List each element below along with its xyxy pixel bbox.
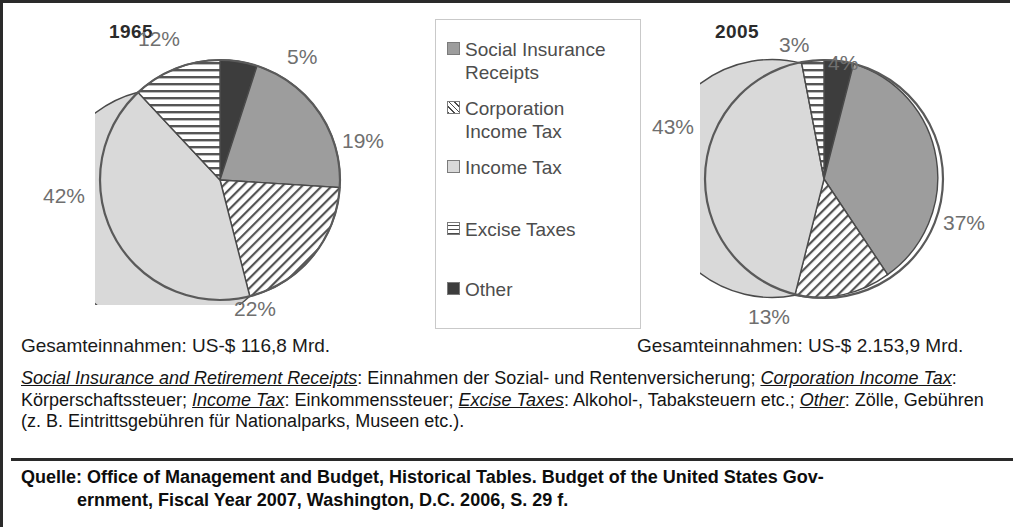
legend-item-other[interactable]: Other (447, 278, 513, 301)
legend-label-excise-taxes: Excise Taxes (465, 218, 576, 241)
glossary-def-income-tax: : Einkommenssteuer; (284, 390, 458, 410)
chart-panel-1965: 1965 (11, 9, 431, 334)
legend-label-corporation-income-tax: Corporation Income Tax (465, 97, 564, 143)
pct-label-excise-1965: 12% (138, 27, 180, 51)
pie-svg-2005 (700, 55, 948, 303)
legend-swatch-excise-taxes-icon (447, 222, 460, 235)
legend-swatch-social-insurance-icon (447, 42, 460, 55)
pct-label-excise-2005: 3% (779, 33, 809, 57)
glossary-term-corporation-income-tax: Corporation Income Tax (760, 368, 951, 388)
source-line-1: Quelle: Office of Management and Budget,… (21, 467, 824, 487)
source-block: Quelle: Office of Management and Budget,… (21, 466, 981, 512)
pie-chart-2005 (700, 55, 948, 303)
glossary-term-excise-taxes: Excise Taxes (459, 390, 564, 410)
glossary-term-income-tax: Income Tax (192, 390, 284, 410)
pct-label-social-1965: 19% (342, 129, 384, 153)
legend-swatch-income-tax-icon (447, 160, 460, 173)
total-receipts-1965: Gesamteinnahmen: US-$ 116,8 Mrd. (21, 335, 330, 357)
pie-chart-1965 (95, 55, 345, 305)
source-divider (11, 458, 1013, 461)
legend-item-social-insurance[interactable]: Social Insurance Receipts (447, 38, 605, 84)
glossary-paragraph: Social Insurance and Retirement Receipts… (21, 368, 997, 433)
legend-swatch-corporation-income-tax-icon (447, 101, 460, 114)
glossary-term-social-insurance: Social Insurance and Retirement Receipts (21, 368, 357, 388)
source-line-2: ernment, Fiscal Year 2007, Washington, D… (21, 489, 981, 512)
legend-item-income-tax[interactable]: Income Tax (447, 156, 562, 179)
pct-label-corporation-2005: 13% (748, 305, 790, 329)
total-receipts-2005: Gesamteinnahmen: US-$ 2.153,9 Mrd. (637, 335, 963, 357)
pct-label-other-1965: 5% (287, 45, 317, 69)
pct-label-corporation-1965: 22% (234, 297, 276, 321)
pie-svg-1965 (95, 55, 345, 305)
legend-item-excise-taxes[interactable]: Excise Taxes (447, 218, 576, 241)
legend-swatch-other-icon (447, 282, 460, 295)
legend-box: Social Insurance Receipts Corporation In… (435, 19, 641, 329)
glossary-term-other: Other (800, 390, 845, 410)
glossary-note: Social Insurance and Retirement Receipts… (21, 368, 997, 433)
legend-label-income-tax: Income Tax (465, 156, 562, 179)
chart-panel-2005: 2005 (648, 9, 1008, 334)
glossary-def-excise-taxes: : Alkohol-, Tabaksteuern etc.; (564, 390, 800, 410)
pct-label-income-tax-1965: 42% (43, 184, 85, 208)
legend-label-other: Other (465, 278, 513, 301)
chart-title-2005: 2005 (715, 21, 759, 43)
pct-label-income-tax-2005: 43% (652, 115, 694, 139)
glossary-def-social-insurance: : Einnahmen der Sozial- und Rentenversic… (357, 368, 760, 388)
pct-label-other-2005: 4% (828, 51, 858, 75)
pct-label-social-2005: 37% (943, 211, 985, 235)
legend-item-corporation-income-tax[interactable]: Corporation Income Tax (447, 97, 564, 143)
legend-label-social-insurance: Social Insurance Receipts (465, 38, 605, 84)
